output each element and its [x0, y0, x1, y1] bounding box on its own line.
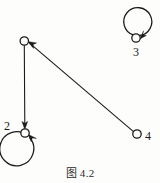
- figure-caption: 图 4.2: [0, 164, 160, 180]
- node-label-2: 2: [4, 120, 10, 132]
- self-loop-arc-node2: [0, 132, 34, 166]
- self-loop-node2: [0, 132, 36, 166]
- node-label-3: 3: [133, 46, 139, 58]
- edge-node4-to-node1: [28, 41, 134, 131]
- node-1[interactable]: [20, 37, 28, 45]
- edge-node1-to-node2: [22, 45, 28, 129]
- edge-line-node4-node1: [30, 44, 133, 132]
- node-3[interactable]: [132, 34, 140, 42]
- node-label-4: 4: [145, 130, 151, 142]
- node-2[interactable]: [21, 129, 29, 137]
- self-loop-arc-node3: [124, 8, 152, 36]
- edge-line-node1-node2: [24, 45, 25, 126]
- figure-container: 2 3 4 图 4.2: [0, 0, 160, 183]
- directed-graph-canvas: [0, 0, 160, 183]
- node-4[interactable]: [133, 130, 141, 138]
